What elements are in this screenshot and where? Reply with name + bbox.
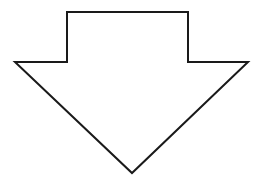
arrow-canvas: Downward pointing arrow outline [0, 0, 259, 188]
background-rect [0, 0, 259, 188]
down-arrow-graphic: Downward pointing arrow outline [0, 0, 259, 188]
